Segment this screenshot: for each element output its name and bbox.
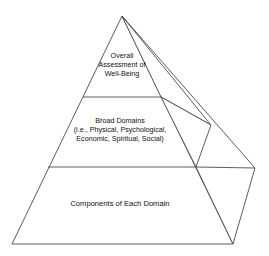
pyramid-graphic [0, 0, 269, 256]
pyramid-diagram: Overall Assessment of Well-Being Broad D… [0, 0, 269, 256]
